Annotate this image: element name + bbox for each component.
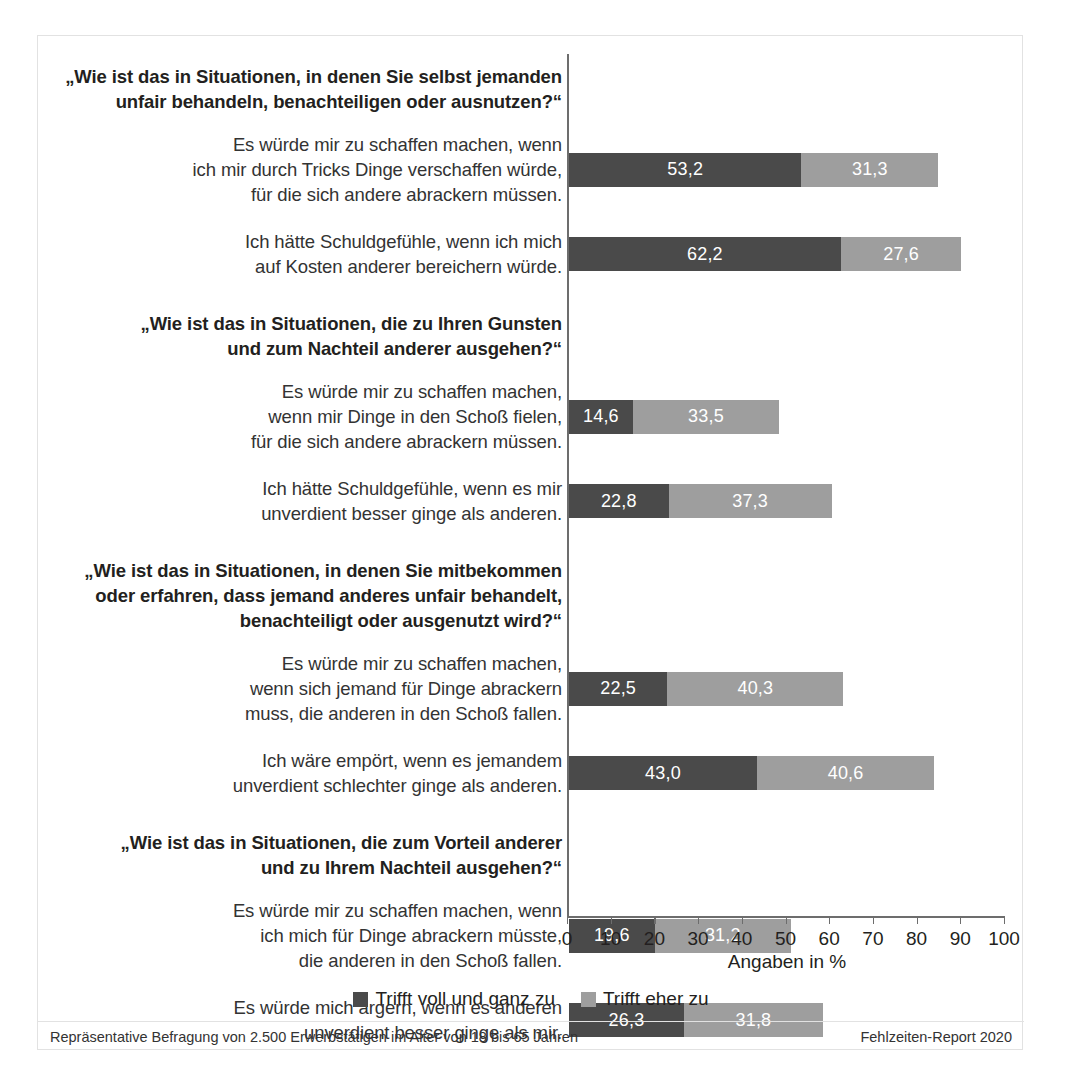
- bar-segment-value: 43,0: [645, 763, 681, 784]
- bar-row-label-line: für die sich andere abrackern müssen.: [38, 182, 562, 207]
- bar-segment-value: 62,2: [687, 244, 723, 265]
- bar-segment-value: 31,3: [852, 159, 888, 180]
- legend-item: Trifft voll und ganz zu: [353, 988, 555, 1010]
- x-axis-tick: [1004, 916, 1005, 924]
- bar-segment-strongly-agree: 22,8: [569, 484, 669, 518]
- bar-row-label: Es würde mir zu schaffen machen,wenn mir…: [38, 379, 562, 454]
- bar-row-label-line: Es würde mir zu schaffen machen,: [38, 379, 562, 404]
- legend-item: Trifft eher zu: [581, 988, 709, 1010]
- chart-footer: Repräsentative Befragung von 2.500 Erwer…: [38, 1021, 1024, 1051]
- bar-segment-value: 40,3: [737, 678, 773, 699]
- bar-segment-somewhat-agree: 40,6: [757, 756, 934, 790]
- x-axis: 0102030405060708090100: [567, 916, 1004, 918]
- bar-row-label-line: die anderen in den Schoß fallen.: [38, 948, 562, 973]
- x-axis-tick: [960, 916, 961, 924]
- bar-row-label-line: Ich hätte Schuldgefühle, wenn ich mich: [38, 229, 562, 254]
- bar-row-label-line: muss, die anderen in den Schoß fallen.: [38, 701, 562, 726]
- group-header-line: „Wie ist das in Situationen, die zum Vor…: [38, 830, 562, 855]
- bar-segment-somewhat-agree: 31,3: [801, 153, 938, 187]
- bar-row-label-line: auf Kosten anderer bereichern würde.: [38, 254, 562, 279]
- bar-segment-value: 27,6: [883, 244, 919, 265]
- bar-row-label-line: für die sich andere abrackern müssen.: [38, 429, 562, 454]
- legend-label: Trifft voll und ganz zu: [375, 988, 555, 1010]
- bar-row-label: Es würde mir zu schaffen machen, wennich…: [38, 132, 562, 207]
- group-header-line: oder erfahren, dass jemand anderes unfai…: [38, 583, 562, 608]
- group-header-line: „Wie ist das in Situationen, in denen Si…: [38, 558, 562, 583]
- bar-segment-strongly-agree: 22,5: [569, 672, 667, 706]
- x-axis-tick: [654, 916, 655, 924]
- stacked-bar: 14,633,5: [569, 400, 779, 434]
- bar-row-label: Ich hätte Schuldgefühle, wenn ich michau…: [38, 229, 562, 279]
- bar-row-label-line: ich mir durch Tricks Dinge verschaffen w…: [38, 157, 562, 182]
- bar-segment-strongly-agree: 14,6: [569, 400, 633, 434]
- bar-segment-value: 33,5: [688, 406, 724, 427]
- bar-segment-value: 40,6: [828, 763, 864, 784]
- group-header: „Wie ist das in Situationen, in denen Si…: [38, 558, 562, 633]
- x-axis-tick: [567, 916, 568, 924]
- footer-source-note: Repräsentative Befragung von 2.500 Erwer…: [50, 1029, 578, 1045]
- footer-report-name: Fehlzeiten-Report 2020: [860, 1029, 1012, 1045]
- group-header-line: benachteiligt oder ausgenutzt wird?“: [38, 608, 562, 633]
- bar-row-label-line: Es würde mir zu schaffen machen, wenn: [38, 898, 562, 923]
- bar-segment-strongly-agree: 43,0: [569, 756, 757, 790]
- bar-segment-value: 22,5: [600, 678, 636, 699]
- x-axis-tick: [611, 916, 612, 924]
- legend-label: Trifft eher zu: [603, 988, 709, 1010]
- x-axis-tick: [698, 916, 699, 924]
- chart-legend: Trifft voll und ganz zuTrifft eher zu: [38, 988, 1024, 1010]
- x-axis-tick: [873, 916, 874, 924]
- stacked-bar: 43,040,6: [569, 756, 934, 790]
- bar-row-label-line: wenn sich jemand für Dinge abrackern: [38, 676, 562, 701]
- x-axis-tick: [917, 916, 918, 924]
- bar-row-label: Ich wäre empört, wenn es jemandemunverdi…: [38, 748, 562, 798]
- group-header: „Wie ist das in Situationen, die zum Vor…: [38, 830, 562, 880]
- stacked-bar: 62,227,6: [569, 237, 961, 271]
- bar-row-label: Ich hätte Schuldgefühle, wenn es mirunve…: [38, 476, 562, 526]
- bar-segment-somewhat-agree: 33,5: [633, 400, 779, 434]
- bar-segment-value: 53,2: [667, 159, 703, 180]
- bar-row-label: Es würde mir zu schaffen machen, wennich…: [38, 898, 562, 973]
- chart-figure: „Wie ist das in Situationen, in denen Si…: [37, 35, 1023, 1050]
- group-header-line: „Wie ist das in Situationen, die zu Ihre…: [38, 311, 562, 336]
- x-axis-tick-label: 100: [974, 928, 1034, 950]
- bar-row-label: Es würde mir zu schaffen machen,wenn sic…: [38, 651, 562, 726]
- bar-row-label-line: unverdient schlechter ginge als anderen.: [38, 773, 562, 798]
- group-header-line: und zu Ihrem Nachteil ausgehen?“: [38, 855, 562, 880]
- x-axis-tick: [786, 916, 787, 924]
- bar-segment-value: 37,3: [732, 491, 768, 512]
- bar-row-label-line: ich mich für Dinge abrackern müsste,: [38, 923, 562, 948]
- group-header-line: und zum Nachteil anderer ausgehen?“: [38, 336, 562, 361]
- stacked-bar: 22,540,3: [569, 672, 843, 706]
- x-axis-tick: [829, 916, 830, 924]
- bar-segment-value: 22,8: [601, 491, 637, 512]
- bar-row-label-line: Ich wäre empört, wenn es jemandem: [38, 748, 562, 773]
- x-axis-tick: [742, 916, 743, 924]
- bar-segment-somewhat-agree: 40,3: [667, 672, 843, 706]
- bar-row-label-line: Es würde mir zu schaffen machen,: [38, 651, 562, 676]
- group-header: „Wie ist das in Situationen, in denen Si…: [38, 64, 562, 114]
- bar-row-label-line: unverdient besser ginge als anderen.: [38, 501, 562, 526]
- group-header-line: „Wie ist das in Situationen, in denen Si…: [38, 64, 562, 89]
- bar-segment-somewhat-agree: 37,3: [669, 484, 832, 518]
- group-header: „Wie ist das in Situationen, die zu Ihre…: [38, 311, 562, 361]
- x-axis-title: Angaben in %: [567, 951, 1007, 973]
- stacked-bar: 22,837,3: [569, 484, 832, 518]
- group-header-line: unfair behandeln, benachteiligen oder au…: [38, 89, 562, 114]
- stacked-bar: 53,231,3: [569, 153, 938, 187]
- bar-row-label-line: Ich hätte Schuldgefühle, wenn es mir: [38, 476, 562, 501]
- legend-swatch: [353, 992, 368, 1007]
- plot-area: „Wie ist das in Situationen, in denen Si…: [38, 36, 1024, 936]
- bar-row-label-line: wenn mir Dinge in den Schoß fielen,: [38, 404, 562, 429]
- bar-segment-strongly-agree: 62,2: [569, 237, 841, 271]
- bar-row-label-line: Es würde mir zu schaffen machen, wenn: [38, 132, 562, 157]
- bar-segment-strongly-agree: 53,2: [569, 153, 801, 187]
- legend-swatch: [581, 992, 596, 1007]
- bar-segment-value: 14,6: [583, 406, 619, 427]
- bar-segment-somewhat-agree: 27,6: [841, 237, 962, 271]
